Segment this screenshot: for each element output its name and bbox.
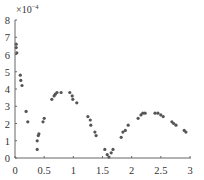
y-tick-label: 3 xyxy=(5,101,10,112)
data-point xyxy=(111,148,114,151)
x-axis: 00.511.522.53 xyxy=(12,156,192,176)
data-point xyxy=(127,124,130,127)
data-point xyxy=(20,84,23,87)
data-point xyxy=(137,117,140,120)
data-point xyxy=(55,91,58,94)
y-tick-label: 0 xyxy=(5,153,10,164)
data-point xyxy=(93,131,96,134)
data-point xyxy=(86,115,89,118)
data-point xyxy=(156,112,159,115)
x-tick-label: 0 xyxy=(12,165,17,176)
data-point xyxy=(110,151,113,154)
x-tick-label: 1.5 xyxy=(96,165,109,176)
y-tick-label: 1 xyxy=(5,136,10,147)
data-point xyxy=(95,134,98,137)
scatter-chart: 00.511.522.53 012345678 ×10−4 xyxy=(0,0,204,180)
data-point xyxy=(75,101,78,104)
data-point xyxy=(162,115,165,118)
y-tick-label: 5 xyxy=(5,67,10,78)
data-point xyxy=(25,110,28,113)
y-tick-label: 4 xyxy=(5,84,11,95)
data-point xyxy=(89,118,92,121)
data-point xyxy=(36,139,39,142)
data-point xyxy=(68,91,71,94)
y-tick-label: 7 xyxy=(5,32,10,43)
data-point xyxy=(50,98,53,101)
data-point xyxy=(36,148,39,151)
y-scale-exponent-label: ×10−4 xyxy=(16,3,39,15)
data-point xyxy=(144,112,147,115)
data-point xyxy=(71,94,74,97)
data-point xyxy=(174,124,177,127)
data-point xyxy=(19,79,22,82)
x-tick-label: 0.5 xyxy=(38,165,51,176)
y-tick-label: 6 xyxy=(5,50,10,61)
data-point xyxy=(19,74,22,77)
y-tick-label: 2 xyxy=(5,119,10,130)
data-point xyxy=(15,51,18,54)
data-point xyxy=(26,120,29,123)
x-tick-label: 2 xyxy=(129,165,134,176)
data-point xyxy=(103,148,106,151)
data-point xyxy=(43,117,46,120)
data-point xyxy=(89,124,92,127)
x-tick-label: 1 xyxy=(71,165,76,176)
x-tick-label: 2.5 xyxy=(154,165,167,176)
y-axis: 012345678 xyxy=(5,15,17,164)
y-tick-label: 8 xyxy=(5,15,10,26)
data-point xyxy=(60,91,63,94)
data-point xyxy=(153,112,156,115)
data-point xyxy=(120,136,123,139)
plot-area xyxy=(15,43,188,159)
data-point xyxy=(41,120,44,123)
data-point xyxy=(124,129,127,132)
data-point xyxy=(37,132,40,135)
x-tick-label: 3 xyxy=(187,165,192,176)
data-point xyxy=(184,131,187,134)
data-point xyxy=(71,98,74,101)
